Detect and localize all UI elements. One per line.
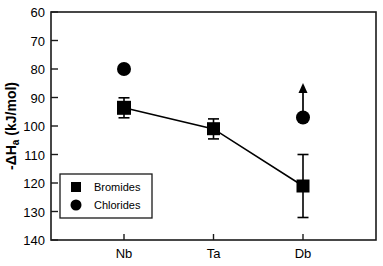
chart-plot-area: 60 70 80 90 100 110 120 130 140 Nb Ta Db…	[0, 0, 383, 266]
legend: Bromides Chlorides	[60, 174, 152, 218]
legend-label-bromides: Bromides	[94, 181, 141, 193]
x-category-label-db: Db	[295, 246, 312, 261]
y-axis-title-main: -ΔH	[3, 145, 19, 170]
y-tick-label-90: 90	[31, 91, 45, 106]
y-tick-label-130: 130	[23, 205, 45, 220]
y-tick-label-110: 110	[24, 148, 45, 163]
x-category-label-ta: Ta	[207, 246, 222, 261]
y-tick-label-70: 70	[31, 34, 45, 49]
bromides-point-ta	[207, 119, 220, 139]
y-tick-label-140: 140	[23, 233, 45, 248]
y-tick-label-80: 80	[31, 62, 45, 77]
bromides-point-db	[297, 155, 310, 218]
legend-marker-chlorides	[71, 200, 82, 211]
bromides-marker-db	[297, 180, 310, 193]
legend-marker-bromides	[71, 182, 81, 192]
legend-label-chlorides: Chlorides	[94, 199, 141, 211]
bromides-marker-nb	[117, 101, 131, 115]
y-tick-marks	[51, 12, 58, 240]
bromides-point-nb	[117, 98, 131, 118]
chart-figure: 60 70 80 90 100 110 120 130 140 Nb Ta Db…	[0, 0, 383, 266]
x-tick-marks	[124, 234, 303, 240]
y-tick-label-120: 120	[23, 176, 45, 191]
x-category-label-nb: Nb	[116, 246, 133, 261]
y-axis-title: -ΔHa (kJ/mol)	[3, 82, 21, 170]
svg-text:-ΔHa (kJ/mol): -ΔHa (kJ/mol)	[3, 82, 21, 170]
bromides-marker-ta	[207, 122, 220, 135]
y-tick-label-100: 100	[23, 119, 45, 134]
y-tick-label-60: 60	[31, 5, 45, 20]
chlorides-marker-nb	[117, 62, 131, 76]
y-axis-title-units: (kJ/mol)	[3, 82, 19, 140]
